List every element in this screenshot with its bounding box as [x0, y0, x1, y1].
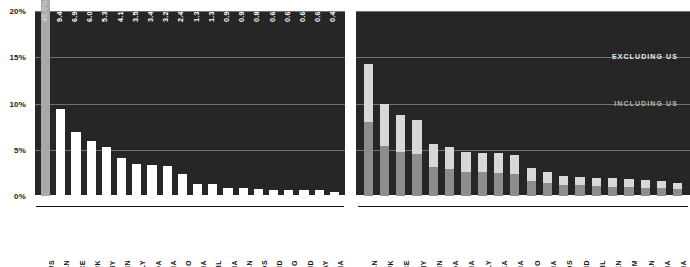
x-axis-category-label: CANADA — [452, 260, 459, 267]
bar-segment-excluding-us — [478, 153, 487, 172]
bar-group — [71, 11, 80, 196]
bar-group — [147, 11, 156, 196]
bar-group — [396, 11, 405, 196]
bar-segment-excluding-us — [412, 120, 421, 154]
bar — [330, 192, 339, 196]
x-axis-category-label: JAPAN — [371, 260, 378, 267]
bar-segment-including-us — [510, 174, 519, 196]
x-axis-category-label: SPAIN — [436, 260, 443, 267]
bar-group — [364, 11, 373, 196]
x-axis-category-label: TAIWAN — [648, 260, 655, 267]
bar-segment-excluding-us — [657, 181, 666, 187]
bar — [163, 166, 172, 196]
bar-value-label: 0.4% — [328, 4, 337, 22]
bar-group — [41, 11, 50, 196]
bar-group — [269, 11, 278, 196]
bar-group — [412, 11, 421, 196]
bar-segment-excluding-us — [527, 168, 536, 181]
bar — [269, 190, 278, 196]
bar-value-label: 4.1% — [116, 4, 125, 22]
y-axis-tick: 20% — [9, 7, 26, 16]
bar-segment-excluding-us — [364, 64, 373, 122]
bar-segment-excluding-us — [396, 115, 405, 152]
bar-value-label: 2.4% — [176, 4, 185, 22]
bar-group — [575, 11, 584, 196]
x-axis-category-label: UK — [387, 260, 394, 267]
bar — [299, 190, 308, 196]
bar-segment-including-us — [364, 122, 373, 196]
bar-segment-including-us — [380, 146, 389, 196]
bar-segment-including-us — [657, 188, 666, 196]
bar — [41, 0, 50, 196]
annotation-including-us: INCLUDING US — [614, 100, 678, 107]
chart-panel-right: EXCLUDING US INCLUDING US — [356, 11, 690, 196]
bar-segment-including-us — [608, 187, 617, 196]
x-axis-category-label: GERMANY — [420, 260, 427, 267]
x-axis-category-label: MEXICO — [534, 260, 541, 267]
bar-group — [478, 11, 487, 196]
bar-group — [494, 11, 503, 196]
bar-value-label: 0.6% — [313, 4, 322, 22]
bar-value-label: 9.4% — [55, 4, 64, 22]
bar-segment-including-us — [559, 185, 568, 196]
bar-group — [254, 11, 263, 196]
bar-value-label: 0.6% — [283, 4, 292, 22]
bar-group — [87, 11, 96, 196]
bar — [102, 147, 111, 196]
bar-segment-including-us — [461, 172, 470, 196]
y-axis-tick: 5% — [14, 145, 26, 154]
bar-value-label: 0.9% — [222, 4, 231, 22]
bar-group — [117, 11, 126, 196]
bar-segment-excluding-us — [543, 172, 552, 183]
bar — [193, 184, 202, 196]
bar-group — [284, 11, 293, 196]
bar-value-label: 3.2% — [161, 4, 170, 22]
x-axis-category-label: SOUTH KOREA — [501, 260, 508, 267]
y-axis-tick: 15% — [9, 53, 26, 62]
bar-group — [102, 11, 111, 196]
x-axis-category-label: FRANCE — [403, 260, 410, 267]
bar-segment-excluding-us — [559, 176, 568, 185]
bar-segment-including-us — [624, 187, 633, 196]
x-axis-category-label: INDIA — [468, 260, 475, 267]
chart-panel-left: 45.0%9.4%6.9%6.0%5.3%4.1%3.5%3.4%3.2%2.4… — [35, 11, 345, 196]
bar — [178, 174, 187, 196]
bar-segment-excluding-us — [641, 180, 650, 187]
bar-segment-excluding-us — [673, 183, 682, 189]
bar-segment-excluding-us — [592, 178, 601, 186]
bar-group — [592, 11, 601, 196]
y-axis: 0%5%10%15%20% — [0, 0, 30, 200]
bar-value-label: 0.6% — [298, 4, 307, 22]
bar — [208, 184, 217, 196]
bar — [71, 132, 80, 196]
bar — [56, 109, 65, 196]
bar-group — [299, 11, 308, 196]
bar-group — [543, 11, 552, 196]
bar-segment-excluding-us — [445, 147, 454, 169]
x-axis-category-label: SWITZERLAND — [583, 260, 590, 267]
x-axis-line — [358, 206, 688, 207]
bar-segment-including-us — [641, 188, 650, 196]
bar-value-label: 3.5% — [131, 4, 140, 22]
bar-group — [163, 11, 172, 196]
bar — [254, 189, 263, 196]
bar — [87, 141, 96, 197]
bar-segment-excluding-us — [608, 178, 617, 186]
bar-segment-including-us — [673, 189, 682, 196]
bar-group — [445, 11, 454, 196]
bar-value-label: 0.9% — [237, 4, 246, 22]
bar-segment-excluding-us — [429, 144, 438, 167]
annotation-excluding-us: EXCLUDING US — [612, 53, 678, 60]
bar-group — [461, 11, 470, 196]
bar-segment-including-us — [543, 183, 552, 196]
bar-segment-including-us — [396, 152, 405, 196]
bar — [315, 190, 324, 196]
x-axis-category-label: CHINA — [664, 260, 671, 267]
chart-page: 0%5%10%15%20% 45.0%9.4%6.9%6.0%5.3%4.1%3… — [0, 0, 690, 267]
bar-segment-including-us — [478, 172, 487, 196]
bar-segment-excluding-us — [624, 179, 633, 186]
bar-value-label: 1.3% — [207, 4, 216, 22]
bar-value-label: 45.0% — [40, 0, 49, 22]
x-axis-category-label: BRAZIL — [599, 260, 606, 267]
y-axis-tick: 10% — [9, 99, 26, 108]
